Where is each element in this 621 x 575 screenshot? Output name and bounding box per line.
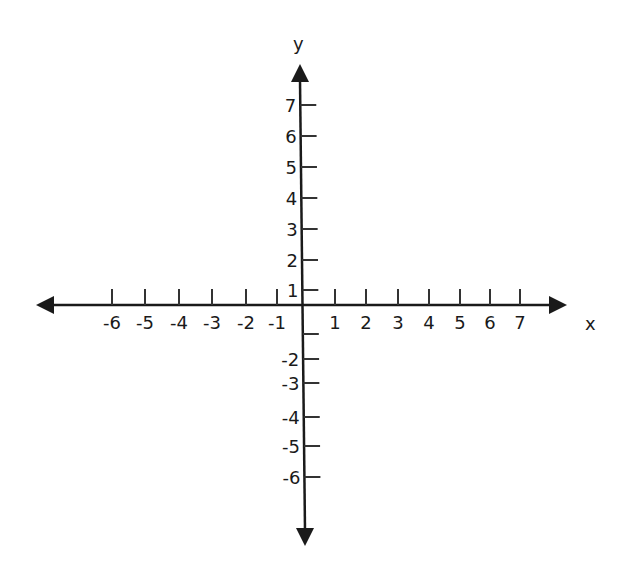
y-tick-label: 6 bbox=[285, 126, 296, 147]
y-tick-label: 4 bbox=[286, 188, 297, 209]
x-tick-label: -6 bbox=[103, 312, 121, 333]
coordinate-plane: -6-5-4-3-2-11234567 7654321-2-3-4-5-6 x … bbox=[0, 0, 621, 575]
x-axis-right-arrow-icon bbox=[549, 296, 567, 314]
x-tick-label: -2 bbox=[237, 312, 255, 333]
y-tick-label: -4 bbox=[282, 407, 300, 428]
y-axis-down-arrow-icon bbox=[296, 528, 314, 546]
x-tick-label: 1 bbox=[329, 312, 340, 333]
x-tick-label: -1 bbox=[268, 312, 286, 333]
x-tick-label: 3 bbox=[392, 312, 403, 333]
x-axis-left-arrow-icon bbox=[36, 296, 54, 314]
y-tick-label: 1 bbox=[287, 280, 298, 301]
x-tick-label: -5 bbox=[136, 312, 154, 333]
x-tick-label: 6 bbox=[484, 312, 495, 333]
x-tick-label: -4 bbox=[170, 312, 188, 333]
y-tick-label: 3 bbox=[286, 219, 297, 240]
y-tick-label: -3 bbox=[281, 373, 299, 394]
x-tick-label: 5 bbox=[454, 312, 465, 333]
x-axis-ticks: -6-5-4-3-2-11234567 bbox=[103, 289, 526, 333]
y-tick-label: -6 bbox=[282, 467, 300, 488]
y-tick-label: 5 bbox=[286, 157, 297, 178]
x-tick-label: -3 bbox=[203, 312, 221, 333]
x-axis-label: x bbox=[585, 313, 596, 334]
y-tick-label: 2 bbox=[287, 250, 298, 271]
x-tick-label: 2 bbox=[360, 312, 371, 333]
x-tick-label: 7 bbox=[514, 312, 525, 333]
y-tick-label: 7 bbox=[285, 95, 296, 116]
y-tick-label: -2 bbox=[281, 349, 299, 370]
y-axis-up-arrow-icon bbox=[291, 64, 309, 82]
y-axis-label: y bbox=[293, 33, 304, 54]
y-tick-label: -5 bbox=[282, 436, 300, 457]
x-tick-label: 4 bbox=[423, 312, 434, 333]
